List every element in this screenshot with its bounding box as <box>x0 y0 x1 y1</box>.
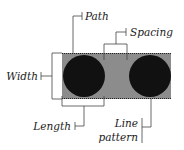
line-pattern-leader <box>142 99 151 143</box>
width-bracket <box>41 53 62 99</box>
spacing-label: Spacing <box>130 26 173 38</box>
path-label: Path <box>84 10 109 22</box>
pattern-dot-2 <box>129 55 171 97</box>
width-label: Width <box>6 70 38 82</box>
line-pattern-label-line1: Line <box>114 117 138 129</box>
line-pattern-label-line2: pattern <box>99 131 139 143</box>
length-label: Length <box>32 120 71 132</box>
line-pattern-diagram: Path Spacing Width Length Line pattern <box>0 0 184 150</box>
path-leader <box>73 12 82 53</box>
pattern-dot-1 <box>63 55 105 97</box>
